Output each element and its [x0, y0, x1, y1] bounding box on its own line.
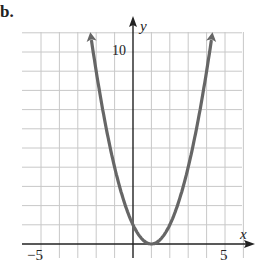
- y-tick-label-10: 10: [112, 43, 126, 59]
- x-tick-label-5: 5: [220, 247, 228, 264]
- x-tick-label-neg5: −5: [27, 247, 43, 264]
- y-axis-label: y: [140, 18, 147, 35]
- x-axis-label: x: [240, 226, 247, 243]
- parabola-graph: [0, 0, 257, 275]
